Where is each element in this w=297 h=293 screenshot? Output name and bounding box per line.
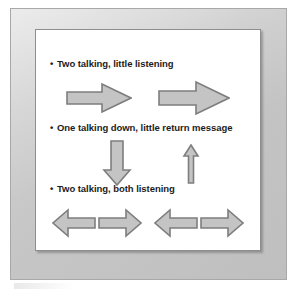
bullet-marker-icon: • (50, 183, 57, 194)
arrow-up-icon (182, 144, 200, 184)
arrow-right-icon (200, 208, 244, 238)
arrow-right-icon (66, 82, 132, 114)
arrow-group-two-talking-both-listening (36, 206, 260, 242)
bullet-marker-icon: • (50, 122, 57, 133)
bullet-item-1-label: Two talking, little listening (57, 58, 174, 69)
bullet-item-3: •Two talking, both listening (50, 183, 175, 194)
bullet-marker-icon: • (50, 58, 57, 69)
bullet-item-2-label: One talking down, little return message (57, 122, 232, 133)
arrow-left-icon (52, 208, 96, 238)
arrow-right-icon (158, 80, 230, 116)
scan-artifact (14, 283, 84, 289)
figure-root: •Two talking, little listening •One talk… (0, 0, 297, 293)
diagram-content-panel: •Two talking, little listening •One talk… (35, 29, 261, 251)
arrow-group-one-talking-down-little-return (36, 140, 260, 182)
bullet-item-1: •Two talking, little listening (50, 58, 174, 69)
arrow-left-icon (154, 208, 198, 238)
arrow-right-icon (98, 208, 142, 238)
bullet-item-2: •One talking down, little return message (50, 122, 232, 133)
bullet-item-3-label: Two talking, both listening (57, 183, 175, 194)
arrow-down-icon (102, 140, 132, 186)
figure-frame-mat: •Two talking, little listening •One talk… (10, 8, 287, 280)
arrow-group-two-talking-little-listening (36, 80, 260, 116)
